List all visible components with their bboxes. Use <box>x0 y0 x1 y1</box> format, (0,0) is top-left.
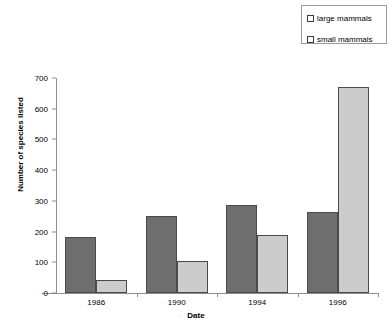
legend-label-large-mammals: large mammals <box>317 14 372 23</box>
y-axis-tick: 200 <box>35 227 56 236</box>
x-axis-line <box>42 293 378 294</box>
plot-area: 0100200300400500600700 <box>56 78 378 293</box>
chart-legend: large mammals small mammals <box>301 5 387 44</box>
bar-group-1990 <box>137 78 218 293</box>
y-axis-tick-label: 700 <box>35 74 52 83</box>
x-axis-tick-label-1996: 1996 <box>298 298 379 307</box>
y-axis-tick: 300 <box>35 196 56 205</box>
y-axis-tick-label: 400 <box>35 166 52 175</box>
legend-label-small-mammals: small mammals <box>317 35 373 44</box>
bar-small-mammals-1996 <box>338 87 369 293</box>
y-axis-tick-label: 500 <box>35 135 52 144</box>
bar-large-mammals-1986 <box>65 237 96 293</box>
bar-small-mammals-1994 <box>257 235 288 293</box>
x-axis-tick-mark <box>298 293 299 297</box>
y-axis-tick: 0 <box>44 289 56 298</box>
legend-swatch-large-mammals <box>307 15 314 22</box>
x-axis-tick-label-1990: 1990 <box>137 298 218 307</box>
bar-large-mammals-1996 <box>307 212 338 293</box>
x-axis-tick-mark <box>217 293 218 297</box>
bar-group-1986 <box>56 78 137 293</box>
x-axis-tick-label-1994: 1994 <box>217 298 298 307</box>
legend-item-small-mammals: small mammals <box>307 32 386 46</box>
x-axis-tick-labels: 1986199019941996 <box>56 298 378 307</box>
legend-item-large-mammals: large mammals <box>307 11 386 25</box>
bar-large-mammals-1990 <box>146 216 177 293</box>
x-axis-title: Date <box>0 311 392 320</box>
x-axis-tick-mark <box>137 293 138 297</box>
y-axis-title: Number of species listed <box>16 85 25 205</box>
y-axis-tick: 100 <box>35 258 56 267</box>
bar-large-mammals-1994 <box>226 205 257 293</box>
y-axis-tick: 400 <box>35 166 56 175</box>
y-axis-tick-label: 100 <box>35 258 52 267</box>
x-axis-tick-label-1986: 1986 <box>56 298 137 307</box>
bar-groups <box>56 78 378 293</box>
y-axis-tick: 700 <box>35 74 56 83</box>
x-axis-tick-mark <box>378 293 379 297</box>
y-axis-tick-label: 300 <box>35 196 52 205</box>
legend-swatch-small-mammals <box>307 36 314 43</box>
y-axis-tick: 600 <box>35 104 56 113</box>
y-axis-tick: 500 <box>35 135 56 144</box>
bar-small-mammals-1986 <box>96 280 127 293</box>
bar-small-mammals-1990 <box>177 261 208 293</box>
bar-group-1996 <box>298 78 379 293</box>
y-axis-tick-label: 200 <box>35 227 52 236</box>
bar-group-1994 <box>217 78 298 293</box>
y-axis-tick-label: 600 <box>35 104 52 113</box>
y-axis-tick-label: 0 <box>44 289 52 298</box>
